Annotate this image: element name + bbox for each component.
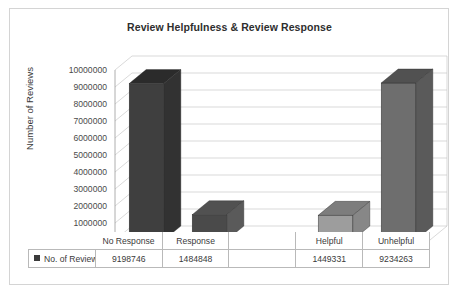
- value-cell-2: [229, 250, 296, 268]
- chart-screenshot: Review Helpfulness & Review Response Num…: [0, 0, 459, 295]
- svg-text:3000000: 3000000: [74, 184, 108, 194]
- category-label-0: No Response: [95, 232, 162, 250]
- svg-text:10000000: 10000000: [69, 65, 107, 75]
- svg-text:4000000: 4000000: [74, 167, 108, 177]
- category-label-4: Unhelpful: [363, 232, 430, 250]
- svg-text:9000000: 9000000: [74, 82, 108, 92]
- legend-entry: No. of Reviews: [29, 250, 96, 268]
- category-row: No Response Response Helpful Unhelpful: [29, 232, 430, 250]
- value-cell-3: 1449331: [296, 250, 363, 268]
- category-label-3: Helpful: [296, 232, 363, 250]
- category-label-1: Response: [162, 232, 229, 250]
- value-cell-4: 9234263: [363, 250, 430, 268]
- svg-text:6000000: 6000000: [74, 133, 108, 143]
- svg-text:8000000: 8000000: [74, 99, 108, 109]
- category-label-2: [229, 232, 296, 250]
- data-table: No Response Response Helpful Unhelpful N…: [28, 232, 430, 268]
- value-cell-1: 1484848: [162, 250, 229, 268]
- svg-text:7000000: 7000000: [74, 116, 108, 126]
- series-value-row: No. of Reviews 9198746 1484848 1449331 9…: [29, 250, 430, 268]
- category-row-spacer: [29, 232, 96, 250]
- svg-text:1000000: 1000000: [74, 218, 108, 228]
- legend-swatch-icon: [34, 255, 40, 261]
- legend-label: No. of Reviews: [44, 254, 95, 264]
- bars-group: [129, 69, 433, 240]
- y-tick-labels-group: 1000000090000008000000700000060000005000…: [69, 65, 107, 245]
- svg-text:5000000: 5000000: [74, 150, 108, 160]
- value-cell-0: 9198746: [95, 250, 162, 268]
- svg-text:2000000: 2000000: [74, 201, 108, 211]
